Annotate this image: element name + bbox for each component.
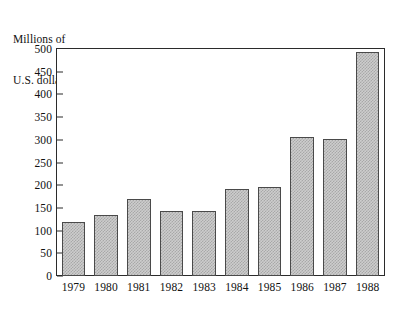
bar-1982: [160, 211, 184, 276]
y-tick-label: 200: [34, 179, 52, 191]
bar-slot: [290, 49, 314, 276]
y-tick-label: 0: [46, 270, 52, 282]
bar-slot: [225, 49, 249, 276]
bar-1979: [62, 222, 86, 276]
bar-slot: [127, 49, 151, 276]
bar-1984: [225, 189, 249, 276]
x-tick-label: 1982: [160, 281, 183, 293]
x-tick-label: 1987: [323, 281, 346, 293]
x-tick-label: 1985: [258, 281, 281, 293]
bar-1987: [323, 139, 347, 276]
bar-1981: [127, 199, 151, 276]
y-tick-label: 150: [34, 202, 52, 214]
y-axis-caption-line-1: Millions of: [13, 33, 69, 47]
bar-1983: [192, 211, 216, 276]
x-tick-label: 1981: [127, 281, 150, 293]
y-tick-label: 300: [34, 134, 52, 146]
x-tick-label: 1979: [62, 281, 85, 293]
bar-slot: [192, 49, 216, 276]
y-tick-label: 100: [34, 225, 52, 237]
bar-series: [57, 49, 384, 276]
bar-slot: [356, 49, 380, 276]
x-tick-label: 1988: [356, 281, 379, 293]
x-tick-label: 1980: [94, 281, 117, 293]
x-tick-label: 1983: [192, 281, 215, 293]
bar-1985: [258, 187, 282, 276]
y-tick-label: 50: [40, 247, 52, 259]
x-tick-label: 1986: [291, 281, 314, 293]
bar-slot: [62, 49, 86, 276]
bar-slot: [160, 49, 184, 276]
bar-1986: [290, 137, 314, 276]
bar-chart: Millions of U.S. dollars 050100150200250…: [0, 0, 401, 318]
x-tick-label: 1984: [225, 281, 248, 293]
bar-1988: [356, 52, 380, 276]
bar-slot: [258, 49, 282, 276]
y-tick-label: 250: [34, 157, 52, 169]
bar-slot: [94, 49, 118, 276]
bar-1980: [94, 215, 118, 276]
x-axis: 1979198019811982198319841985198619871988: [57, 281, 384, 301]
bar-slot: [323, 49, 347, 276]
